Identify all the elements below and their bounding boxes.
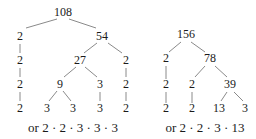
prime-factorization-caption: or 2 · 2 · 3 · 3 · 3 <box>28 120 118 135</box>
tree-edge <box>64 67 76 77</box>
tree-edge <box>69 19 96 28</box>
tree-node: 108 <box>54 5 72 19</box>
tree-node: 54 <box>96 29 108 43</box>
tree-edge <box>169 42 181 52</box>
tree-node: 3 <box>44 101 50 115</box>
tree-edge <box>191 42 205 52</box>
tree-edge <box>215 66 227 77</box>
factor-tree-156: 156278223922133or 2 · 2 · 3 · 13 <box>163 27 248 135</box>
tree-node: 78 <box>204 51 216 65</box>
tree-node: 9 <box>57 77 63 91</box>
tree-node: 27 <box>74 53 86 67</box>
tree-node: 3 <box>242 101 248 115</box>
tree-node: 3 <box>70 101 76 115</box>
tree-edge <box>85 67 97 77</box>
tree-edge <box>49 91 57 101</box>
factor-tree-108: 1082542272293223332or 2 · 2 · 3 · 3 · 3 <box>17 5 129 135</box>
tree-node: 2 <box>17 29 23 43</box>
tree-node: 2 <box>123 77 129 91</box>
tree-node: 2 <box>189 101 195 115</box>
tree-edge <box>26 19 57 28</box>
tree-node: 2 <box>17 77 23 91</box>
tree-node: 2 <box>17 53 23 67</box>
tree-edge <box>84 43 97 53</box>
tree-node: 3 <box>97 77 103 91</box>
tree-edge <box>221 92 227 101</box>
tree-edge <box>63 91 71 101</box>
tree-node: 39 <box>224 77 236 91</box>
tree-node: 156 <box>177 27 195 41</box>
tree-edge <box>195 66 205 77</box>
tree-edge <box>234 92 243 101</box>
tree-node: 2 <box>123 101 129 115</box>
tree-node: 2 <box>17 101 23 115</box>
tree-node: 3 <box>97 101 103 115</box>
tree-node: 13 <box>213 101 225 115</box>
tree-node: 2 <box>163 77 169 91</box>
tree-node: 2 <box>189 77 195 91</box>
tree-node: 2 <box>163 51 169 65</box>
tree-node: 2 <box>163 101 169 115</box>
factor-trees-diagram: 1082542272293223332or 2 · 2 · 3 · 3 · 3 … <box>0 0 256 139</box>
tree-node: 2 <box>123 53 129 67</box>
tree-edge <box>108 43 122 53</box>
prime-factorization-caption: or 2 · 2 · 3 · 13 <box>165 120 244 135</box>
